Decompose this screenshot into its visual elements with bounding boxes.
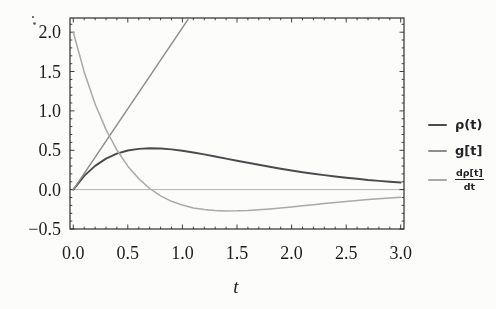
x-tick-label: 1.5 (226, 243, 249, 263)
y-tick-label: 0.5 (39, 140, 62, 160)
series-drho-dt (73, 32, 400, 211)
y-tick-label: 2.0 (39, 22, 62, 42)
x-axis-label: t (233, 276, 239, 297)
figure: 0.00.51.01.52.02.53.0−0.50.00.51.01.52.0… (0, 0, 496, 309)
series-g (73, 20, 188, 190)
y-tick-label: 1.5 (39, 62, 62, 82)
line-chart: 0.00.51.01.52.02.53.0−0.50.00.51.01.52.0… (0, 0, 496, 309)
y-tick-label: 1.0 (39, 101, 62, 121)
tick-marks (70, 18, 404, 229)
y-tick-label: −0.5 (28, 219, 61, 239)
print-specks (32, 16, 36, 25)
plot-frame (70, 18, 404, 229)
x-tick-label: 3.0 (389, 243, 412, 263)
x-tick-label: 2.5 (335, 243, 358, 263)
x-tick-label: 1.0 (171, 243, 194, 263)
x-tick-label: 0.5 (117, 243, 140, 263)
y-tick-label: 0.0 (39, 180, 62, 200)
series-rho (73, 148, 400, 189)
plot-canvas: 0.00.51.01.52.02.53.0−0.50.00.51.01.52.0… (0, 0, 496, 309)
x-tick-label: 0.0 (62, 243, 85, 263)
x-tick-label: 2.0 (280, 243, 303, 263)
